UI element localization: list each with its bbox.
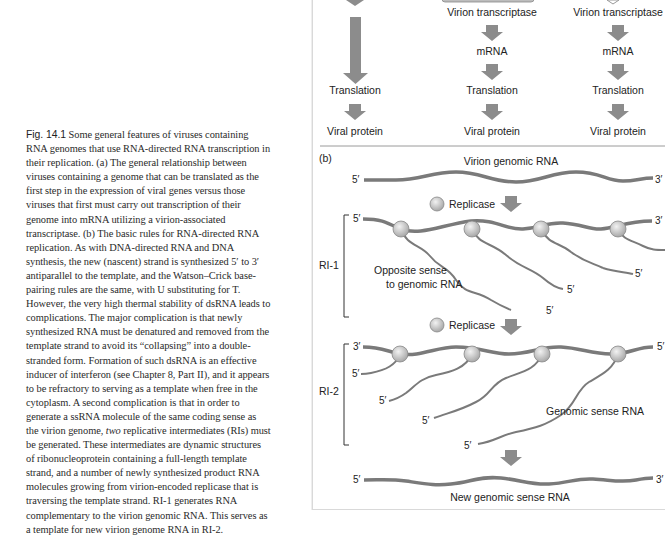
col1-step-viral-protein: Viral protein xyxy=(327,125,383,137)
five-prime-label: 5′ xyxy=(635,268,643,279)
five-prime-label: 5′ xyxy=(353,213,361,224)
three-prime-label: 3′ xyxy=(353,341,361,352)
arrow-down-icon xyxy=(607,0,619,4)
three-prime-label: 3′ xyxy=(655,215,663,226)
opposite-sense-label-line2: to genomic RNA xyxy=(386,278,462,290)
replicase-icon xyxy=(610,221,626,237)
caption-italic: two xyxy=(106,425,121,436)
opposite-sense-label-line1: Opposite sense xyxy=(374,264,447,276)
three-prime-label: 3′ xyxy=(655,174,663,185)
ri2-bracket xyxy=(344,344,349,445)
replicase-label: Replicase xyxy=(449,198,495,210)
arrow-down-icon xyxy=(344,104,366,120)
arrow-down-icon xyxy=(481,25,503,41)
five-prime-label: 5′ xyxy=(464,440,472,451)
ri1-nascent-strand xyxy=(472,229,563,289)
arrow-down-icon xyxy=(346,0,364,6)
figure-label: Fig. 14.1 xyxy=(26,129,66,140)
five-prime-label: 5′ xyxy=(567,284,575,295)
five-prime-label: 5′ xyxy=(657,341,665,352)
replicase-icon xyxy=(534,346,550,362)
arrow-down-icon xyxy=(607,25,629,41)
replicase-icon xyxy=(392,346,408,362)
genomic-rna-strand xyxy=(364,172,653,182)
arrow-down-icon xyxy=(607,104,629,120)
ri2-nascent-strand xyxy=(434,354,542,418)
ri1-bracket xyxy=(344,215,349,317)
ri2-label: RI-2 xyxy=(319,385,339,397)
figure-panel: Virion transcriptase Virion transcriptas… xyxy=(312,0,665,510)
replicase-icon xyxy=(533,221,549,237)
col2-step-viral-protein: Viral protein xyxy=(464,125,520,137)
figure-caption: Fig. 14.1 Some general features of virus… xyxy=(26,128,271,537)
arrow-down-icon xyxy=(500,319,522,335)
replicase-icon xyxy=(464,346,480,362)
ri2-nascent-strand xyxy=(478,354,618,444)
arrow-down-icon xyxy=(607,64,629,80)
three-prime-label: 3′ xyxy=(656,474,664,485)
col3-step-mrna: mRNA xyxy=(603,45,634,57)
new-genomic-sense-rna-label: New genomic sense RNA xyxy=(450,491,570,503)
caption-text-1: Some general features of viruses contain… xyxy=(26,129,270,436)
ri1-nascent-strand xyxy=(541,229,603,268)
long-arrow-down-icon xyxy=(343,17,368,84)
col1-step-translation: Translation xyxy=(329,84,381,96)
ri1-label: RI-1 xyxy=(319,259,339,271)
replicase-icon xyxy=(464,221,480,237)
arrow-down-icon xyxy=(481,104,503,120)
col3-step-transcriptase: Virion transcriptase xyxy=(573,6,663,18)
five-prime-label: 5′ xyxy=(352,368,360,379)
caption-text-2: replicative intermediates (RIs) must be … xyxy=(26,425,271,535)
five-prime-label: 5′ xyxy=(379,395,387,406)
col3-step-translation: Translation xyxy=(592,84,644,96)
virion-genomic-rna-title: Virion genomic RNA xyxy=(464,155,558,167)
genomic-sense-label: Genomic sense RNA xyxy=(546,405,644,417)
col2-step-translation: Translation xyxy=(466,84,518,96)
arrow-down-icon xyxy=(500,196,522,212)
five-prime-label: 5′ xyxy=(546,305,554,316)
replicase-icon xyxy=(610,346,626,362)
replicase-icon xyxy=(430,318,444,332)
arrow-down-icon xyxy=(500,450,522,466)
replicase-label: Replicase xyxy=(449,319,495,331)
five-prime-label: 5′ xyxy=(353,474,361,485)
five-prime-label: 5′ xyxy=(422,415,430,426)
five-prime-label: 5′ xyxy=(352,174,360,185)
col2-step-mrna: mRNA xyxy=(477,45,508,57)
arrow-down-icon xyxy=(481,64,503,80)
replicase-icon xyxy=(393,221,409,237)
panel-b-label: (b) xyxy=(319,152,332,164)
col2-step-transcriptase: Virion transcriptase xyxy=(447,6,537,18)
new-genomic-rna-strand xyxy=(364,478,653,485)
replicase-icon xyxy=(430,197,444,211)
genome-box-edge xyxy=(442,0,534,2)
col3-step-viral-protein: Viral protein xyxy=(590,125,646,137)
